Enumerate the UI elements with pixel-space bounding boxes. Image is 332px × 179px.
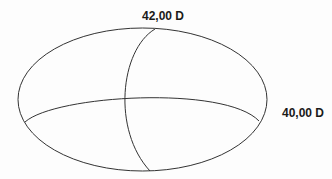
horizontal-meridian-arc [25,98,259,122]
outer-ellipse-outline [18,28,267,171]
toric-surface-diagram: 42,00 D 40,00 D [0,0,332,179]
horizontal-meridian-power-label: 40,00 D [282,107,324,119]
vertical-meridian-power-label: 42,00 D [142,10,184,22]
vertical-meridian-arc [125,29,155,171]
ellipsoid-drawing [0,0,332,179]
